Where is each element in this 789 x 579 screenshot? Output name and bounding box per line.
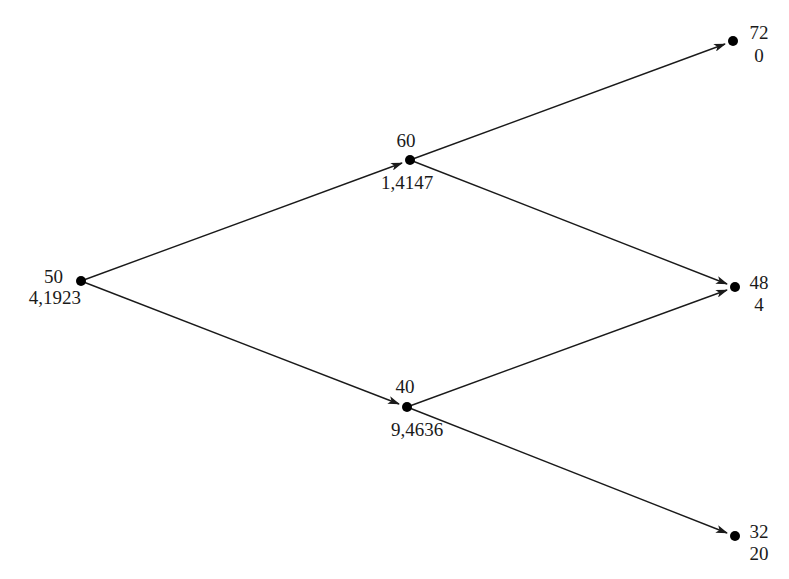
tree-diagram xyxy=(0,0,789,579)
node-updown-value: 4 xyxy=(754,294,764,316)
node-up-price: 60 xyxy=(397,130,416,152)
node-downdown-value: 20 xyxy=(750,543,769,565)
node-down-price: 40 xyxy=(396,376,415,398)
edge-root-up xyxy=(81,163,402,281)
edge-root-down xyxy=(81,281,399,404)
node-updown-price: 48 xyxy=(750,272,769,294)
tree-nodes xyxy=(76,36,740,541)
edge-up-upup xyxy=(410,44,725,160)
edge-up-updown xyxy=(410,160,727,284)
node-dot-downdown xyxy=(730,531,740,541)
edge-down-downdown xyxy=(407,407,727,533)
node-root-price: 50 xyxy=(44,266,63,288)
node-down-value: 9,4636 xyxy=(391,419,443,441)
node-dot-updown xyxy=(730,282,740,292)
node-upup-price: 72 xyxy=(750,22,769,44)
node-dot-root xyxy=(76,276,86,286)
node-up-value: 1,4147 xyxy=(381,172,433,194)
edge-down-updown xyxy=(407,290,727,407)
node-root-value: 4,1923 xyxy=(29,287,81,309)
node-downdown-price: 32 xyxy=(750,521,769,543)
node-dot-upup xyxy=(728,36,738,46)
node-dot-up xyxy=(405,155,415,165)
node-dot-down xyxy=(402,402,412,412)
node-upup-value: 0 xyxy=(754,45,764,67)
tree-edges xyxy=(81,44,727,533)
